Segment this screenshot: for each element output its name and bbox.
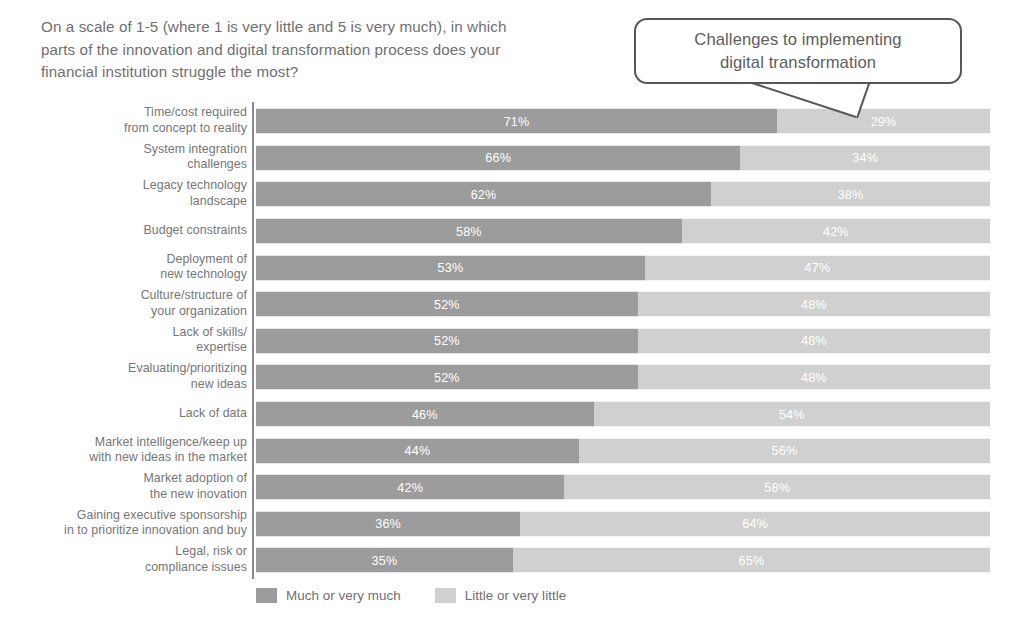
bar-rows: Time/cost requiredfrom concept to realit… xyxy=(0,103,1021,579)
stacked-bar: 58%42% xyxy=(256,219,990,244)
bar-segment-little: 64% xyxy=(520,511,990,536)
bar-segment-little: 54% xyxy=(594,402,990,427)
bar-row-label-line: new ideas xyxy=(27,377,247,393)
stacked-bar: 52%48% xyxy=(256,328,990,353)
bar-segment-much: 66% xyxy=(256,145,740,170)
bar-row: Time/cost requiredfrom concept to realit… xyxy=(0,103,1021,140)
bar-row-label: Evaluating/prioritizingnew ideas xyxy=(27,362,257,393)
bar-row: Market intelligence/keep upwith new idea… xyxy=(0,432,1021,469)
bar-row-label: System integrationchallenges xyxy=(27,142,257,173)
bar-row-label-line: Deployment of xyxy=(27,252,247,268)
bar-segment-little: 42% xyxy=(682,219,990,244)
bar-row-label-line: Market adoption of xyxy=(27,472,247,488)
bar-row-label: Legacy technologylandscape xyxy=(27,179,257,210)
bar-row-label-line: with new ideas in the market xyxy=(27,451,247,467)
stacked-bar: 46%54% xyxy=(256,402,990,427)
bar-segment-much: 71% xyxy=(256,109,777,134)
stacked-bar: 66%34% xyxy=(256,145,990,170)
bar-row-label: Lack of skills/expertise xyxy=(27,325,257,356)
bar-segment-little: 38% xyxy=(711,182,990,207)
bar-row: System integrationchallenges66%34% xyxy=(0,140,1021,177)
bar-segment-little: 47% xyxy=(645,255,990,280)
bar-row-label-line: Time/cost required xyxy=(27,106,247,122)
bar-row-label: Culture/structure ofyour organization xyxy=(27,289,257,320)
bar-row: Legal, risk orcompliance issues35%65% xyxy=(0,542,1021,579)
bar-row-label-line: Culture/structure of xyxy=(27,289,247,305)
stacked-bar: 53%47% xyxy=(256,255,990,280)
bar-segment-little: 48% xyxy=(638,328,990,353)
bar-row: Budget constraints58%42% xyxy=(0,213,1021,250)
bar-segment-much: 53% xyxy=(256,255,645,280)
bar-row-label-line: your organization xyxy=(27,304,247,320)
bar-row: Lack of skills/expertise52%48% xyxy=(0,323,1021,360)
stacked-bar: 52%48% xyxy=(256,365,990,390)
legend-item: Much or very much xyxy=(256,588,401,603)
bar-segment-little: 48% xyxy=(638,365,990,390)
bar-segment-much: 36% xyxy=(256,511,520,536)
bar-row-label: Time/cost requiredfrom concept to realit… xyxy=(27,106,257,137)
bar-row: Evaluating/prioritizingnew ideas52%48% xyxy=(0,359,1021,396)
bar-row-label: Budget constraints xyxy=(27,223,257,239)
bar-row-label-line: Budget constraints xyxy=(27,223,247,239)
bar-row-label-line: System integration xyxy=(27,142,247,158)
bar-segment-much: 62% xyxy=(256,182,711,207)
bar-segment-little: 58% xyxy=(564,475,990,500)
bar-row-label-line: Legacy technology xyxy=(27,179,247,195)
bar-row-label-line: the new inovation xyxy=(27,487,247,503)
bar-row-label-line: Lack of skills/ xyxy=(27,325,247,341)
bar-row: Culture/structure ofyour organization52%… xyxy=(0,286,1021,323)
callout-line-1: Challenges to implementing xyxy=(694,28,901,51)
bar-row-label-line: Market intelligence/keep up xyxy=(27,435,247,451)
callout-box: Challenges to implementing digital trans… xyxy=(634,18,962,84)
bar-segment-much: 52% xyxy=(256,328,638,353)
bar-row-label: Gaining executive sponsorshipin to prior… xyxy=(27,508,257,539)
bar-segment-little: 29% xyxy=(777,109,990,134)
stacked-bar: 62%38% xyxy=(256,182,990,207)
bar-row-label: Legal, risk orcompliance issues xyxy=(27,545,257,576)
bar-row-label-line: Lack of data xyxy=(27,406,247,422)
legend-label: Much or very much xyxy=(286,588,401,603)
bar-segment-little: 48% xyxy=(638,292,990,317)
legend-item: Little or very little xyxy=(435,588,567,603)
stacked-bar: 52%48% xyxy=(256,292,990,317)
bar-row-label-line: from concept to reality xyxy=(27,121,247,137)
bar-segment-little: 34% xyxy=(740,145,990,170)
stacked-bar: 36%64% xyxy=(256,511,990,536)
bar-row-label: Market intelligence/keep upwith new idea… xyxy=(27,435,257,466)
bar-row-label-line: Legal, risk or xyxy=(27,545,247,561)
bar-segment-much: 46% xyxy=(256,402,594,427)
bar-segment-much: 44% xyxy=(256,438,579,463)
bar-segment-much: 42% xyxy=(256,475,564,500)
bar-segment-little: 56% xyxy=(579,438,990,463)
bar-row-label-line: Gaining executive sponsorship xyxy=(27,508,247,524)
bar-row-label-line: Evaluating/prioritizing xyxy=(27,362,247,378)
bar-row-label-line: compliance issues xyxy=(27,560,247,576)
bar-row: Legacy technologylandscape62%38% xyxy=(0,176,1021,213)
stacked-bar-chart: Time/cost requiredfrom concept to realit… xyxy=(0,0,1021,632)
bar-row-label-line: new technology xyxy=(27,268,247,284)
bar-row: Lack of data46%54% xyxy=(0,396,1021,433)
bar-row-label-line: in to prioritize innovation and buy xyxy=(27,524,247,540)
callout-line-2: digital transformation xyxy=(720,51,876,74)
stacked-bar: 35%65% xyxy=(256,548,990,573)
bar-segment-little: 65% xyxy=(513,548,990,573)
bar-row-label-line: expertise xyxy=(27,341,247,357)
bar-row-label-line: landscape xyxy=(27,194,247,210)
legend-swatch-icon xyxy=(435,588,456,603)
bar-row-label: Lack of data xyxy=(27,406,257,422)
stacked-bar: 71%29% xyxy=(256,109,990,134)
bar-row-label: Deployment ofnew technology xyxy=(27,252,257,283)
bar-segment-much: 58% xyxy=(256,219,682,244)
bar-segment-much: 52% xyxy=(256,292,638,317)
bar-segment-much: 35% xyxy=(256,548,513,573)
stacked-bar: 44%56% xyxy=(256,438,990,463)
bar-row: Gaining executive sponsorshipin to prior… xyxy=(0,506,1021,543)
bar-row-label-line: challenges xyxy=(27,158,247,174)
legend-swatch-icon xyxy=(256,588,277,603)
chart-legend: Much or very muchLittle or very little xyxy=(256,588,566,603)
bar-row-label: Market adoption ofthe new inovation xyxy=(27,472,257,503)
bar-segment-much: 52% xyxy=(256,365,638,390)
bar-row: Deployment ofnew technology53%47% xyxy=(0,249,1021,286)
stacked-bar: 42%58% xyxy=(256,475,990,500)
legend-label: Little or very little xyxy=(465,588,567,603)
